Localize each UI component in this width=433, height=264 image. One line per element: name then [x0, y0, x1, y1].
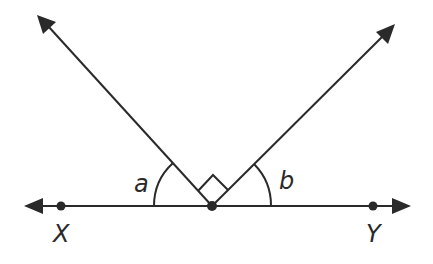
label-angle-a: a	[134, 172, 149, 196]
ray-left	[48, 26, 212, 206]
ray-right	[212, 35, 384, 206]
label-angle-b: b	[279, 169, 294, 193]
point-x	[57, 202, 66, 211]
angle-a-arc	[154, 163, 173, 206]
label-point-y: Y	[366, 222, 381, 246]
label-point-x: X	[53, 222, 69, 246]
arrowhead-left-baseline	[24, 198, 43, 214]
angle-b-arc	[254, 164, 271, 206]
arrowhead-right-baseline	[392, 198, 411, 214]
point-vertex	[207, 201, 217, 211]
point-y	[369, 202, 378, 211]
right-angle-marker	[198, 175, 228, 191]
